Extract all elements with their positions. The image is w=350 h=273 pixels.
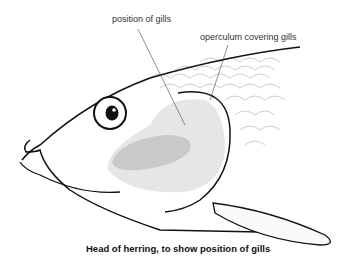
- eye-pupil: [106, 106, 119, 121]
- label-position-of-gills: position of gills: [112, 14, 171, 24]
- figure-caption: Head of herring, to show position of gil…: [86, 243, 270, 254]
- jaw: [20, 162, 120, 192]
- operculum-leader-line: [210, 45, 228, 100]
- label-operculum: operculum covering gills: [200, 32, 297, 42]
- herring-head-illustration: [0, 0, 350, 273]
- pectoral-fin: [213, 203, 330, 245]
